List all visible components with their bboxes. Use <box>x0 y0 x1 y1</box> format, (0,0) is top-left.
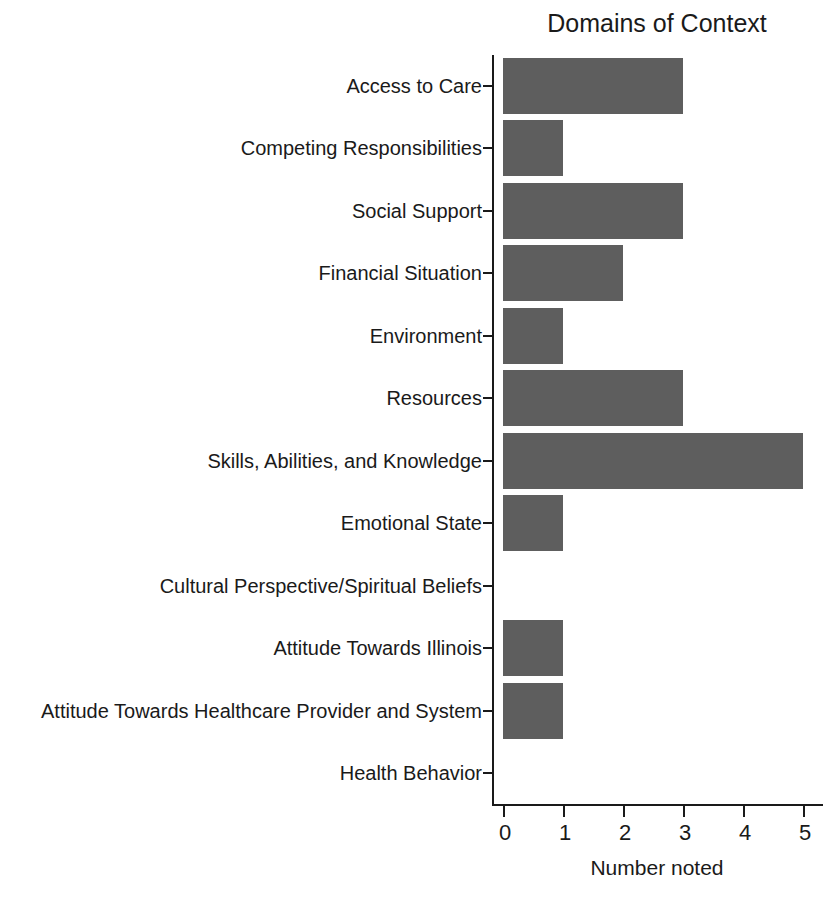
bar-row: Attitude Towards Illinois <box>0 618 831 679</box>
bar-row: Attitude Towards Healthcare Provider and… <box>0 680 831 741</box>
bar-chart-figure: Domains of Context Access to CareCompeti… <box>0 0 831 898</box>
y-axis-tick <box>483 647 493 649</box>
x-axis-tick-label: 1 <box>545 820 585 846</box>
bar-row: Financial Situation <box>0 243 831 304</box>
x-axis-tick-label: 3 <box>665 820 705 846</box>
bar <box>503 308 563 364</box>
x-axis-tick-label: 4 <box>725 820 765 846</box>
bar <box>503 433 803 489</box>
category-label: Cultural Perspective/Spiritual Beliefs <box>160 574 482 598</box>
bar <box>503 620 563 676</box>
x-axis-tick-label: 2 <box>605 820 645 846</box>
y-axis-tick <box>483 522 493 524</box>
category-label: Competing Responsibilities <box>241 136 482 160</box>
bar <box>503 120 563 176</box>
y-axis-tick <box>483 272 493 274</box>
chart-title: Domains of Context <box>492 8 822 38</box>
category-label: Social Support <box>352 199 482 223</box>
category-label: Health Behavior <box>340 761 482 785</box>
y-axis-tick <box>483 210 493 212</box>
y-axis-tick <box>483 585 493 587</box>
y-axis-tick <box>483 147 493 149</box>
bar <box>503 58 683 114</box>
x-axis-title: Number noted <box>492 855 822 880</box>
bar <box>503 683 563 739</box>
category-label: Resources <box>386 386 482 410</box>
bar-row: Environment <box>0 305 831 366</box>
y-axis-tick <box>483 397 493 399</box>
bar <box>503 495 563 551</box>
bar-row: Cultural Perspective/Spiritual Beliefs <box>0 555 831 616</box>
bar-row: Resources <box>0 368 831 429</box>
x-axis-tick-label: 0 <box>485 820 525 846</box>
x-axis-tick <box>503 806 505 817</box>
x-axis-tick <box>743 806 745 817</box>
bar-row: Competing Responsibilities <box>0 118 831 179</box>
category-label: Attitude Towards Illinois <box>273 636 482 660</box>
category-label: Attitude Towards Healthcare Provider and… <box>41 699 482 723</box>
category-label: Skills, Abilities, and Knowledge <box>207 449 482 473</box>
y-axis-tick <box>483 460 493 462</box>
x-axis-tick <box>803 806 805 817</box>
category-label: Access to Care <box>346 74 482 98</box>
bar <box>503 370 683 426</box>
x-axis-tick-label: 5 <box>785 820 825 846</box>
y-axis-tick <box>483 710 493 712</box>
category-label: Financial Situation <box>319 261 482 285</box>
category-label: Emotional State <box>341 511 482 535</box>
category-label: Environment <box>370 324 482 348</box>
bar-row: Skills, Abilities, and Knowledge <box>0 430 831 491</box>
bar-row: Emotional State <box>0 493 831 554</box>
bar-row: Social Support <box>0 180 831 241</box>
x-axis-tick <box>563 806 565 817</box>
bar-row: Health Behavior <box>0 743 831 804</box>
x-axis-tick <box>683 806 685 817</box>
y-axis-tick <box>483 772 493 774</box>
y-axis-tick <box>483 85 493 87</box>
bar-row: Access to Care <box>0 55 831 116</box>
x-axis-tick <box>623 806 625 817</box>
y-axis-tick <box>483 335 493 337</box>
bar <box>503 245 623 301</box>
bar <box>503 183 683 239</box>
